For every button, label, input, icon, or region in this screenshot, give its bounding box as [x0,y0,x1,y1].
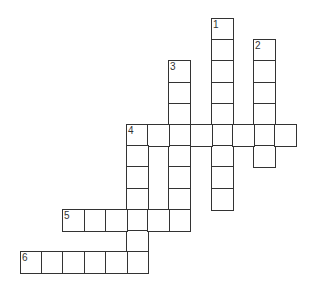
clue-number: 4 [128,125,134,136]
crossword-cell[interactable] [168,188,191,211]
crossword-cell[interactable] [84,251,107,274]
crossword-cell[interactable] [105,251,128,274]
crossword-cell[interactable] [253,124,276,147]
crossword-cell[interactable] [211,60,234,83]
crossword-cell[interactable] [41,251,64,274]
crossword-cell[interactable] [232,124,255,147]
crossword-cell[interactable] [168,103,191,126]
clue-number: 5 [64,210,70,221]
crossword-cell[interactable] [253,145,276,168]
clue-number: 3 [170,61,176,72]
crossword-cell[interactable] [253,82,276,105]
crossword-cell[interactable] [168,145,191,168]
clue-number: 6 [22,252,28,263]
crossword-cell[interactable]: 3 [168,60,191,83]
crossword-cell[interactable]: 6 [20,251,43,274]
crossword-grid: 123456 [0,0,311,296]
crossword-cell[interactable] [126,251,149,274]
crossword-cell[interactable] [274,124,297,147]
crossword-cell[interactable] [168,124,191,147]
crossword-cell[interactable] [190,124,213,147]
crossword-cell[interactable] [253,103,276,126]
crossword-cell[interactable] [211,39,234,62]
crossword-cell[interactable] [147,124,170,147]
crossword-cell[interactable] [126,166,149,189]
crossword-cell[interactable] [253,60,276,83]
crossword-cell[interactable] [168,209,191,232]
crossword-cell[interactable] [168,166,191,189]
crossword-cell[interactable]: 5 [62,209,85,232]
crossword-cell[interactable] [211,103,234,126]
crossword-cell[interactable] [62,251,85,274]
clue-number: 1 [213,19,219,30]
crossword-cell[interactable]: 1 [211,18,234,41]
crossword-cell[interactable] [211,145,234,168]
crossword-cell[interactable] [147,209,170,232]
crossword-cell[interactable] [126,209,149,232]
crossword-cell[interactable] [211,188,234,211]
crossword-cell[interactable] [126,145,149,168]
crossword-cell[interactable] [168,82,191,105]
clue-number: 2 [255,40,261,51]
crossword-cell[interactable] [211,82,234,105]
crossword-cell[interactable] [211,124,234,147]
crossword-cell[interactable] [84,209,107,232]
crossword-cell[interactable] [105,209,128,232]
crossword-cell[interactable] [126,188,149,211]
crossword-cell[interactable]: 4 [126,124,149,147]
crossword-cell[interactable] [126,230,149,253]
crossword-cell[interactable] [211,166,234,189]
crossword-cell[interactable]: 2 [253,39,276,62]
